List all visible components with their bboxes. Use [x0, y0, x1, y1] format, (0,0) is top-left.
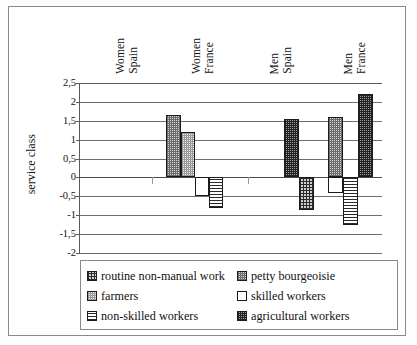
legend-swatch-icon	[87, 311, 97, 321]
y-axis-tick-label: -1,5	[36, 229, 76, 240]
y-axis-tick-label: -1	[36, 210, 76, 221]
y-axis-tick-mark	[76, 102, 80, 103]
y-axis-tick-label: 1	[36, 134, 76, 145]
bar	[209, 177, 223, 208]
y-axis-tick-mark	[76, 234, 80, 235]
y-axis-tick-mark	[76, 215, 80, 216]
y-axis-tick-label: 0	[36, 172, 76, 183]
legend-label: skilled workers	[251, 290, 326, 302]
category-label-word: Spain	[282, 47, 294, 74]
y-axis-tick-label: 2,5	[36, 78, 76, 89]
bar	[181, 132, 195, 177]
category-label-word: Men	[269, 53, 281, 74]
y-axis-tick-mark	[76, 253, 80, 254]
legend-label: farmers	[101, 290, 138, 302]
gridline	[80, 83, 382, 84]
gridline	[80, 102, 382, 103]
bar	[328, 117, 343, 177]
y-axis-tick-label: 0,5	[36, 153, 76, 164]
category-label-word: Women	[191, 38, 203, 74]
category-label-word: France	[356, 42, 368, 74]
legend-swatch-icon	[237, 311, 247, 321]
chart-legend: routine non-manual workpetty bourgeoisie…	[80, 260, 398, 330]
y-axis-tick-mark	[76, 140, 80, 141]
category-label-women-france: WomenFrance	[170, 10, 236, 74]
category-axis-labels: WomenSpainWomenFranceMenSpainMenFrance	[90, 10, 390, 76]
y-axis-tick-mark	[76, 196, 80, 197]
legend-item: routine non-manual work	[87, 270, 237, 282]
y-axis-tick-label: -0,5	[36, 191, 76, 202]
category-label-men-spain: MenSpain	[248, 10, 314, 74]
y-axis-tick-mark	[76, 121, 80, 122]
gridline	[80, 196, 382, 197]
legend-swatch-icon	[237, 271, 247, 281]
legend-item: skilled workers	[237, 290, 391, 302]
gridline	[80, 253, 382, 254]
bar	[358, 94, 373, 177]
bar	[328, 177, 343, 193]
category-label-word: Spain	[128, 47, 140, 74]
category-label-word: Men	[343, 53, 355, 74]
legend-label: routine non-manual work	[101, 270, 225, 282]
bar	[166, 115, 181, 177]
y-axis-tick-label: 1,5	[36, 116, 76, 127]
category-label-men-france: MenFrance	[322, 10, 388, 74]
legend-item: agricultural workers	[237, 310, 391, 322]
figure-canvas: WomenSpainWomenFranceMenSpainMenFrance s…	[0, 0, 417, 345]
bar	[284, 119, 299, 178]
legend-swatch-icon	[87, 291, 97, 301]
legend-label: non-skilled workers	[101, 310, 198, 322]
legend-grid: routine non-manual workpetty bourgeoisie…	[87, 266, 391, 326]
bar	[343, 177, 358, 225]
legend-label: petty bourgeoisie	[251, 270, 335, 282]
category-label-word: Women	[115, 38, 127, 74]
y-axis-tick-mark	[76, 177, 80, 178]
legend-label: agricultural workers	[251, 310, 349, 322]
legend-swatch-icon	[237, 291, 247, 301]
gridline	[80, 234, 382, 235]
legend-item: petty bourgeoisie	[237, 270, 391, 282]
gridline	[80, 215, 382, 216]
plot-wrapper: 2,521,510,50-0,5-1-1,5-2	[79, 83, 381, 253]
plot-area: 2,521,510,50-0,5-1-1,5-2	[79, 83, 381, 253]
bar	[299, 177, 314, 209]
y-axis-tick-label: -2	[36, 248, 76, 259]
category-label-word: France	[204, 42, 216, 74]
group-separator-tick	[248, 177, 249, 184]
bar	[195, 177, 209, 195]
y-axis-tick-label: 2	[36, 97, 76, 108]
y-axis-tick-mark	[76, 159, 80, 160]
legend-swatch-icon	[87, 271, 97, 281]
legend-item: non-skilled workers	[87, 310, 237, 322]
legend-item: farmers	[87, 290, 237, 302]
category-label-women-spain: WomenSpain	[94, 10, 160, 74]
group-separator-tick	[152, 177, 153, 184]
y-axis-tick-mark	[76, 83, 80, 84]
